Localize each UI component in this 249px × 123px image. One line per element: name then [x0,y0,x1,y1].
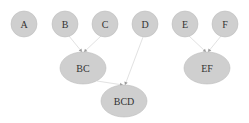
edge-d-to-bcd [124,37,143,85]
edge-line [69,36,82,52]
node-label: C [102,19,109,30]
node-ef[interactable]: EF [184,52,230,84]
node-label: BC [76,63,90,74]
edge-line [189,36,206,52]
node-label: D [141,19,148,30]
tree-diagram: ABCDEFBCBCDEF [0,0,249,123]
edge-line [208,36,221,52]
node-b[interactable]: B [52,11,78,37]
node-label: EF [201,63,213,74]
node-label: B [62,19,69,30]
node-f[interactable]: F [212,11,238,37]
edge-line [84,36,101,52]
node-bc[interactable]: BC [60,52,106,84]
nodes-layer: ABCDEFBCBCDEF [11,11,238,117]
node-label: E [182,19,188,30]
edge-line [97,81,123,85]
node-c[interactable]: C [92,11,118,37]
edge-e-to-ef [189,36,206,52]
node-label: F [222,19,228,30]
node-a[interactable]: A [11,11,37,37]
edge-b-to-bc [69,36,82,52]
node-e[interactable]: E [172,11,198,37]
edge-c-to-bc [84,36,101,52]
node-label: A [20,19,28,30]
diagram-canvas: ABCDEFBCBCDEF [0,0,249,123]
node-d[interactable]: D [132,11,158,37]
edge-f-to-ef [208,36,221,52]
edge-line [125,37,143,85]
node-label: BCD [114,96,135,107]
node-bcd[interactable]: BCD [101,85,147,117]
